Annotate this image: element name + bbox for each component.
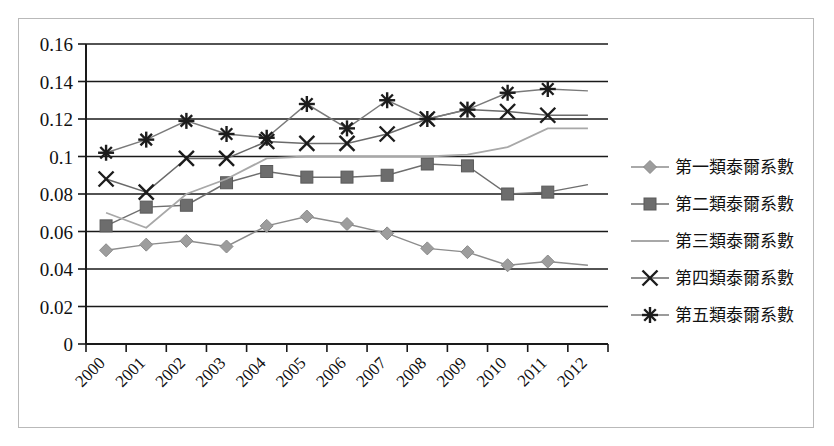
marker-square [261, 166, 273, 178]
y-tick-label: 0.08 [40, 184, 73, 205]
legend-label: 第五類泰爾系數 [675, 305, 794, 325]
legend-label: 第三類泰爾系數 [675, 231, 794, 251]
x-tick-label: 2001 [112, 353, 149, 390]
marker-square [180, 199, 192, 211]
marker-star [299, 96, 315, 112]
marker-star [500, 85, 516, 101]
line-chart: 00.020.040.060.080.10.120.140.16 2000200… [19, 19, 815, 429]
marker-square [100, 220, 112, 232]
marker-star [339, 120, 355, 136]
marker-diamond [260, 219, 273, 232]
x-tick-label: 2009 [433, 353, 470, 390]
legend-label: 第二類泰爾系數 [675, 194, 794, 214]
series-1 [100, 210, 588, 272]
marker-star [98, 145, 114, 161]
y-tick-label: 0.16 [40, 34, 73, 55]
marker-diamond [381, 227, 394, 240]
legend-item-5[interactable]: 第五類泰爾系數 [631, 305, 794, 325]
marker-diamond [644, 161, 657, 174]
x-tick-label: 2002 [152, 353, 189, 390]
x-tick-label: 2010 [473, 353, 510, 390]
y-tick-label: 0.14 [40, 72, 74, 93]
legend-item-2[interactable]: 第二類泰爾系數 [631, 194, 794, 214]
x-tick-label: 2006 [312, 353, 349, 390]
marker-square [644, 198, 656, 210]
marker-diamond [220, 240, 233, 253]
x-tick-label: 2011 [514, 353, 551, 390]
legend-item-3[interactable]: 第三類泰爾系數 [631, 231, 794, 251]
marker-star [459, 102, 475, 118]
x-axis-tick-labels: 2000200120022003200420052006200720082009… [71, 353, 590, 391]
marker-star [642, 307, 658, 323]
x-tick-label: 2005 [272, 353, 309, 390]
marker-square [461, 160, 473, 172]
marker-star [540, 81, 556, 97]
legend-label: 第四類泰爾系數 [675, 268, 794, 288]
y-tick-label: 0.1 [49, 147, 73, 168]
x-tick-label: 2007 [353, 353, 391, 391]
marker-star [379, 92, 395, 108]
y-tick-label: 0.02 [40, 297, 73, 318]
marker-diamond [100, 244, 113, 257]
x-tick-label: 2008 [393, 353, 430, 390]
marker-square [421, 158, 433, 170]
legend-item-1[interactable]: 第一類泰爾系數 [631, 157, 794, 177]
marker-square [341, 171, 353, 183]
chart-legend: 第一類泰爾系數第二類泰爾系數第三類泰爾系數第四類泰爾系數第五類泰爾系數 [631, 157, 794, 325]
y-tick-label: 0.06 [40, 222, 73, 243]
marker-diamond [341, 218, 354, 231]
y-axis-tick-labels: 00.020.040.060.080.10.120.140.16 [40, 34, 74, 355]
marker-x [99, 172, 114, 187]
marker-star [178, 113, 194, 129]
legend-item-4[interactable]: 第四類泰爾系數 [631, 268, 794, 288]
marker-diamond [421, 242, 434, 255]
marker-diamond [140, 238, 153, 251]
marker-square [542, 186, 554, 198]
legend-label: 第一類泰爾系數 [675, 157, 794, 177]
y-tick-label: 0 [64, 334, 74, 355]
marker-square [381, 169, 393, 181]
marker-diamond [300, 210, 313, 223]
marker-diamond [541, 255, 554, 268]
series-4 [99, 102, 588, 200]
y-tick-label: 0.12 [40, 109, 73, 130]
y-tick-label: 0.04 [40, 259, 74, 280]
marker-x [380, 127, 395, 142]
x-tick-label: 2012 [553, 353, 590, 390]
marker-star [219, 126, 235, 142]
marker-square [140, 201, 152, 213]
data-series [98, 81, 588, 272]
marker-star [138, 132, 154, 148]
marker-diamond [461, 246, 474, 259]
marker-star [259, 130, 275, 146]
marker-square [301, 171, 313, 183]
chart-frame: 00.020.040.060.080.10.120.140.16 2000200… [18, 18, 814, 428]
marker-star [419, 111, 435, 127]
marker-x [139, 185, 154, 200]
marker-diamond [180, 234, 193, 247]
x-tick-label: 2004 [232, 353, 270, 391]
x-tick-label: 2003 [192, 353, 229, 390]
x-tick-label: 2000 [71, 353, 108, 390]
marker-square [502, 188, 514, 200]
